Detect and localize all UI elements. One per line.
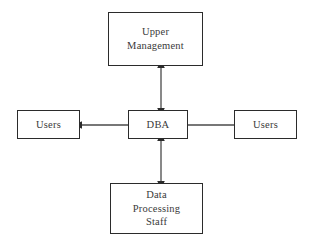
connector-dba-data-processing <box>150 133 172 189</box>
connector-dba-users-left <box>74 117 134 133</box>
node-users-right: Users <box>234 110 297 139</box>
connector-dba-upper-management <box>150 60 172 116</box>
node-users-right-label: Users <box>250 118 281 132</box>
node-data-processing-staff-label: Data Processing Staff <box>130 188 184 230</box>
node-users-left: Users <box>17 110 80 139</box>
node-upper-management: Upper Management <box>108 12 203 66</box>
connector-dba-users-right <box>182 117 242 133</box>
node-upper-management-label: Upper Management <box>124 25 187 53</box>
node-dba: DBA <box>128 110 188 139</box>
node-data-processing-staff: Data Processing Staff <box>110 183 203 234</box>
node-dba-label: DBA <box>144 118 173 132</box>
diagram-canvas: Upper Management DBA Users Users Data Pr… <box>0 0 316 246</box>
node-users-left-label: Users <box>33 118 64 132</box>
